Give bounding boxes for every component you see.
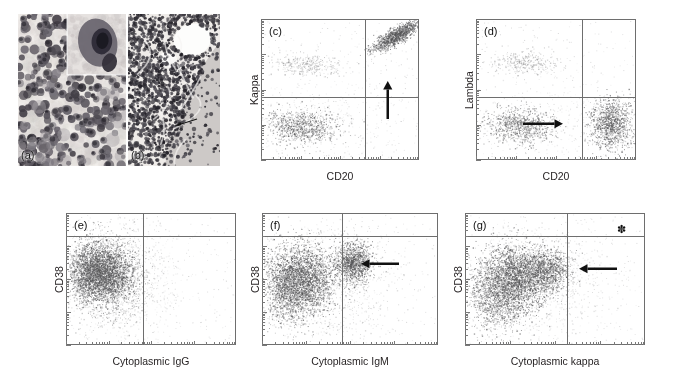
annotation-arrow-left-f — [361, 259, 399, 269]
quadrant-line-vertical-f — [342, 213, 343, 345]
quadrant-line-horizontal-c — [261, 97, 419, 98]
micrograph-panel-b — [128, 14, 220, 166]
quadrant-line-horizontal-f — [262, 236, 438, 237]
y-axis-label-c: Kappa — [248, 74, 260, 104]
quadrant-line-vertical-d — [582, 19, 583, 160]
quadrant-line-vertical-g — [567, 213, 568, 345]
scatter-plot-d: (d) — [476, 19, 636, 160]
scatter-plot-g: (g)✽ — [465, 213, 645, 345]
annotation-asterisk-g: ✽ — [617, 224, 626, 235]
x-axis-label-d: CD20 — [476, 170, 636, 182]
y-axis-label-f: CD38 — [249, 266, 261, 293]
quadrant-line-vertical-e — [143, 213, 144, 345]
figure-canvas: (a) (b) (c)CD20Kappa(d)CD20Lambda(e)Cyto… — [0, 0, 673, 386]
y-axis-label-e: CD38 — [53, 266, 65, 293]
scatter-plot-c: (c) — [261, 19, 419, 160]
x-axis-label-f: Cytoplasmic IgM — [262, 355, 438, 367]
annotation-arrow-up-c — [383, 81, 393, 119]
scatter-dots-d — [476, 19, 636, 160]
x-axis-label-e: Cytoplasmic IgG — [66, 355, 236, 367]
x-axis-label-c: CD20 — [261, 170, 419, 182]
y-axis-label-g: CD38 — [452, 266, 464, 293]
quadrant-line-vertical-c — [365, 19, 366, 160]
scatter-plot-f: (f) — [262, 213, 438, 345]
scatter-dots-c — [261, 19, 419, 160]
annotation-arrow-left-g — [579, 264, 617, 274]
micrograph-panel-a — [18, 14, 126, 166]
scatter-dots-f — [262, 213, 438, 345]
x-axis-label-g: Cytoplasmic kappa — [465, 355, 645, 367]
scatter-plot-e: (e) — [66, 213, 236, 345]
tissue-arrow-icon — [172, 114, 198, 132]
quadrant-line-horizontal-g — [465, 236, 645, 237]
quadrant-line-horizontal-e — [66, 236, 236, 237]
annotation-arrow-right-d — [523, 119, 563, 129]
y-axis-label-d: Lambda — [463, 71, 475, 109]
scatter-dots-e — [66, 213, 236, 345]
quadrant-line-horizontal-d — [476, 97, 636, 98]
